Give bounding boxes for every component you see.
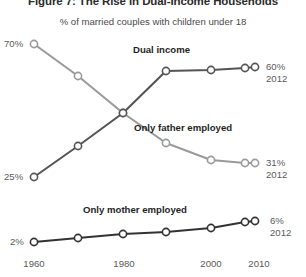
line-chart-plot xyxy=(0,0,306,277)
data-point xyxy=(119,109,126,116)
series-label-only-father-employed: Only father employed xyxy=(134,122,232,133)
data-point xyxy=(251,63,258,70)
data-point xyxy=(207,224,214,231)
data-point xyxy=(241,64,248,71)
data-point xyxy=(241,218,248,225)
end-value-only-mother-percent: 6% xyxy=(270,215,291,227)
end-value-only-father: 31% 2012 xyxy=(266,157,287,181)
data-point xyxy=(251,217,258,224)
data-point xyxy=(162,67,169,74)
end-value-only-father-percent: 31% xyxy=(266,157,287,169)
data-point xyxy=(74,142,81,149)
data-point xyxy=(251,159,258,166)
data-point xyxy=(30,173,37,180)
start-value-dual-income: 25% xyxy=(4,171,23,182)
x-tick-2000: 2000 xyxy=(186,258,236,269)
data-point xyxy=(74,234,81,241)
data-point xyxy=(207,66,214,73)
x-tick-2010: 2010 xyxy=(234,258,284,269)
data-point xyxy=(119,230,126,237)
end-value-dual-income-percent: 60% xyxy=(266,61,287,73)
x-tick-1980: 1980 xyxy=(99,258,149,269)
data-point xyxy=(162,228,169,235)
series-only-father-line xyxy=(34,44,255,163)
end-value-only-father-year: 2012 xyxy=(266,169,287,181)
series-only-mother-line xyxy=(34,221,255,242)
data-point xyxy=(30,238,37,245)
series-only-father-employed xyxy=(30,40,258,166)
series-only-mother-employed xyxy=(30,217,258,245)
series-label-dual-income: Dual income xyxy=(133,44,190,55)
end-value-only-mother-year: 2012 xyxy=(270,227,291,239)
data-point xyxy=(241,159,248,166)
series-label-only-mother-employed: Only mother employed xyxy=(83,204,187,215)
data-point xyxy=(74,72,81,79)
end-value-dual-income: 60% 2012 xyxy=(266,61,287,85)
data-point xyxy=(30,40,37,47)
data-point xyxy=(207,156,214,163)
end-value-only-mother: 6% 2012 xyxy=(270,215,291,239)
figure-container: Figure 7: The Rise in Dual-Income Househ… xyxy=(0,0,306,277)
start-value-only-father: 70% xyxy=(4,38,23,49)
end-value-dual-income-year: 2012 xyxy=(266,73,287,85)
start-value-only-mother: 2% xyxy=(10,236,24,247)
data-point xyxy=(162,139,169,146)
x-tick-1960: 1960 xyxy=(9,258,59,269)
